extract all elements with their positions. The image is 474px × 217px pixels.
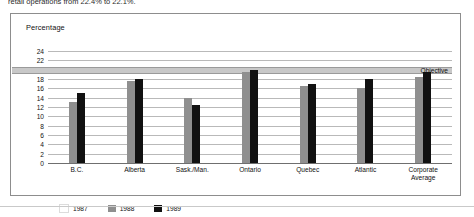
bar-1989 — [192, 105, 200, 163]
y-axis-tick-label: 18 — [37, 76, 44, 83]
bottom-divider — [0, 206, 474, 207]
y-axis-title: Percentage — [26, 23, 65, 32]
gridline — [48, 163, 452, 164]
bar-group — [394, 51, 452, 163]
bar-1988 — [242, 72, 250, 163]
y-axis-tick-label: 8 — [40, 122, 44, 129]
x-axis-label: Atlantic — [337, 166, 395, 182]
y-axis-tick-label: 10 — [37, 113, 44, 120]
x-axis-label: Ontario — [221, 166, 279, 182]
bar-1988 — [415, 77, 423, 163]
bar-group — [106, 51, 164, 163]
y-axis-tick-label: 12 — [37, 104, 44, 111]
y-axis-tick-label: 6 — [40, 132, 44, 139]
bar-1988 — [184, 98, 192, 163]
y-axis-tick-label: 0 — [40, 160, 44, 167]
bar-1989 — [135, 79, 143, 163]
bar-1988 — [300, 86, 308, 163]
x-axis-label: B.C. — [48, 166, 106, 182]
bar-group — [221, 51, 279, 163]
bar-group — [48, 51, 106, 163]
y-axis-tick-label: 16 — [37, 85, 44, 92]
chart-frame: Percentage 024681012141618202224 Objecti… — [10, 13, 461, 196]
bar-1989 — [77, 93, 85, 163]
bar-groups — [48, 51, 452, 163]
bar-group — [163, 51, 221, 163]
bar-1988 — [357, 88, 365, 163]
x-axis-label: Corporate Average — [394, 166, 452, 182]
bar-1989 — [423, 72, 431, 163]
bar-1988 — [127, 81, 135, 163]
bar-1988 — [69, 102, 77, 163]
x-axis-labels: B.C.AlbertaSask./Man.OntarioQuebecAtlant… — [48, 166, 452, 182]
y-axis-tick-label: 24 — [37, 48, 44, 55]
bar-1989 — [250, 70, 258, 163]
bar-group — [279, 51, 337, 163]
x-axis-label: Quebec — [279, 166, 337, 182]
y-axis-tick-label: 4 — [40, 141, 44, 148]
y-axis-tick-label: 14 — [37, 94, 44, 101]
x-axis-label: Alberta — [106, 166, 164, 182]
caption-text: retail operations from 22.4% to 22.1%. — [8, 0, 248, 8]
bar-group — [337, 51, 395, 163]
bar-1989 — [365, 79, 373, 163]
y-axis-tick-label: 2 — [40, 150, 44, 157]
x-axis-label: Sask./Man. — [163, 166, 221, 182]
plot-area: 024681012141618202224 Objective — [48, 51, 452, 163]
y-axis-tick-label: 22 — [37, 57, 44, 64]
bar-1989 — [308, 84, 316, 163]
